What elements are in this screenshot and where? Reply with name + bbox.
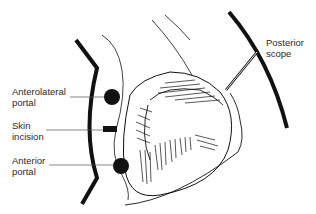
anterior-portal-label: Anterior portal: [12, 155, 45, 177]
anterior-portal-marker: [113, 158, 129, 174]
acromion-line: [152, 20, 192, 75]
skin-incision-marker: [103, 126, 117, 132]
humeral-head: [123, 72, 231, 196]
skin-incision-label: Skin incision: [12, 120, 44, 142]
top-contour: [165, 15, 190, 40]
outer-contour: [102, 35, 128, 200]
anterolateral-portal-label: Anterolateral portal: [12, 86, 66, 108]
anterior-skin-boundary: [76, 40, 97, 204]
tissue-hatching: [136, 80, 220, 184]
lower-contour: [125, 93, 242, 205]
anterolateral-portal-marker: [104, 89, 120, 105]
posterior-scope-label: Posterior scope: [266, 37, 304, 59]
